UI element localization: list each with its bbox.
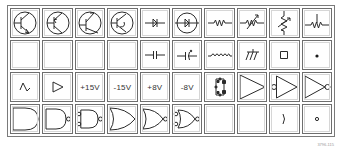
cell-potentiometer-vertical[interactable] [269, 8, 299, 38]
square-pad-icon [270, 41, 298, 69]
cell-label-plus-8v[interactable]: +8V [140, 72, 170, 102]
cell-npn-transistor-variant[interactable] [75, 8, 105, 38]
resistor-tap-icon [303, 9, 331, 37]
npn-transistor-variant-icon [76, 9, 104, 37]
cell-chassis-ground[interactable] [237, 40, 267, 70]
buffer-amplifier-icon [238, 73, 266, 101]
nand-gate-icon [44, 105, 72, 133]
resistor-icon [206, 9, 234, 37]
cell-empty[interactable] [10, 40, 40, 70]
inverting-input-buffer-icon [270, 73, 298, 101]
cell-nand-gate[interactable] [42, 104, 72, 134]
polarized-capacitor-icon [173, 41, 201, 69]
cell-resistor-tap[interactable] [302, 8, 332, 38]
cell-nor-gate-inverted-inputs[interactable] [172, 104, 202, 134]
cell-empty[interactable] [75, 40, 105, 70]
chassis-ground-icon [238, 41, 266, 69]
inductor-icon [206, 41, 234, 69]
voltage-label: -8V [181, 83, 194, 92]
cell-or-gate[interactable] [107, 104, 137, 134]
cell-empty[interactable] [42, 40, 72, 70]
potentiometer-vertical-icon [270, 9, 298, 37]
cell-npn-transistor[interactable] [10, 8, 40, 38]
cell-ac-source-wave[interactable] [10, 72, 40, 102]
diode-icon [141, 9, 169, 37]
cell-inductor[interactable] [204, 40, 234, 70]
junction-dot-icon [303, 41, 331, 69]
voltage-label: +8V [147, 83, 162, 92]
cell-pnp-transistor-variant[interactable] [107, 8, 137, 38]
small-buffer-icon [44, 73, 72, 101]
cell-diode-in-circle[interactable] [172, 8, 202, 38]
cell-buffer-amplifier[interactable] [237, 72, 267, 102]
cell-resistor[interactable] [204, 8, 234, 38]
cell-variable-resistor[interactable] [237, 8, 267, 38]
nor-gate-inverted-inputs-icon [173, 105, 201, 133]
nand-gate-inverted-inputs-icon [76, 105, 104, 133]
cell-pnp-transistor[interactable] [42, 8, 72, 38]
cell-nor-gate[interactable] [140, 104, 170, 134]
cell-square-pad[interactable] [269, 40, 299, 70]
inverter-icon [303, 73, 331, 101]
cell-small-circle[interactable] [302, 104, 332, 134]
pnp-transistor-icon [44, 9, 72, 37]
figure-caption: 3796-115 [317, 142, 334, 147]
bridge-rectifier-icon [206, 73, 234, 101]
cell-empty[interactable] [237, 104, 267, 134]
cell-empty[interactable] [107, 40, 137, 70]
cell-and-gate[interactable] [10, 104, 40, 134]
cell-diode[interactable] [140, 8, 170, 38]
capacitor-icon [141, 41, 169, 69]
cell-polarized-capacitor[interactable] [172, 40, 202, 70]
cell-small-buffer[interactable] [42, 72, 72, 102]
npn-transistor-icon [11, 9, 39, 37]
ac-wave-icon [11, 73, 39, 101]
cell-arc[interactable] [269, 104, 299, 134]
arc-icon [270, 105, 298, 133]
pnp-transistor-variant-icon [108, 9, 136, 37]
cell-junction-dot[interactable] [302, 40, 332, 70]
cell-inverter[interactable] [302, 72, 332, 102]
cell-label-plus-15v[interactable]: +15V [75, 72, 105, 102]
or-gate-icon [108, 105, 136, 133]
cell-inverting-input-buffer[interactable] [269, 72, 299, 102]
voltage-label: -15V [114, 83, 132, 92]
cell-empty[interactable] [204, 104, 234, 134]
cell-label-minus-15v[interactable]: -15V [107, 72, 137, 102]
voltage-label: +15V [80, 83, 100, 92]
symbol-palette-grid: +15V -15V +8V -8V [7, 5, 335, 137]
cell-nand-gate-inverted-inputs[interactable] [75, 104, 105, 134]
cell-capacitor[interactable] [140, 40, 170, 70]
variable-resistor-icon [238, 9, 266, 37]
nor-gate-icon [141, 105, 169, 133]
small-circle-icon [303, 105, 331, 133]
cell-label-minus-8v[interactable]: -8V [172, 72, 202, 102]
diode-in-circle-icon [173, 9, 201, 37]
and-gate-icon [11, 105, 39, 133]
cell-bridge-rectifier[interactable] [204, 72, 234, 102]
